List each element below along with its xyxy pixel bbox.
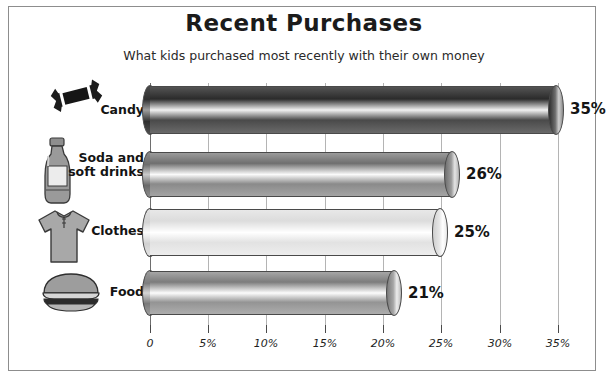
bar-body <box>150 152 452 197</box>
category-label-candy: Candy <box>48 103 144 117</box>
x-tick-25 <box>441 325 442 333</box>
x-tick-label: 5% <box>180 337 236 350</box>
bar-value-label: 25% <box>454 223 490 241</box>
x-tick-35 <box>558 325 559 333</box>
bar-cap-right <box>432 208 448 257</box>
chart-page: Recent Purchases What kids purchased mos… <box>0 0 608 381</box>
bar-cap-right <box>548 85 564 135</box>
x-tick-5 <box>208 325 209 333</box>
bar-clothes[interactable]: 25% <box>150 209 440 256</box>
x-tick-label: 0 <box>122 337 178 350</box>
bar-value-label: 35% <box>570 100 606 118</box>
category-label-line: Candy <box>100 102 144 117</box>
category-label-clothes: Clothes <box>48 224 144 238</box>
x-tick-label: 10% <box>238 337 294 350</box>
x-tick-30 <box>500 325 501 333</box>
x-tick-label: 30% <box>472 337 528 350</box>
category-label-line: Clothes <box>91 223 144 238</box>
bar-body <box>150 209 440 256</box>
bar-food[interactable]: 21% <box>150 271 394 315</box>
chart-title: Recent Purchases <box>0 10 608 36</box>
category-label-line: Soda and <box>40 151 144 165</box>
x-tick-label: 35% <box>530 337 586 350</box>
x-tick-15 <box>325 325 326 333</box>
category-label-line: soft drinks <box>40 165 144 179</box>
category-label-soda: Soda and soft drinks <box>40 151 144 179</box>
bar-body <box>150 271 394 315</box>
bar-value-label: 21% <box>408 284 444 302</box>
bar-cap-right <box>444 151 460 198</box>
x-tick-20 <box>383 325 384 333</box>
category-label-food: Food <box>48 285 144 299</box>
bar-value-label: 26% <box>466 165 502 183</box>
x-tick-label: 20% <box>355 337 411 350</box>
bar-soda[interactable]: 26% <box>150 152 452 197</box>
x-tick-label: 25% <box>413 337 469 350</box>
x-tick-10 <box>266 325 267 333</box>
category-label-line: Food <box>110 284 144 299</box>
bar-body <box>150 86 556 134</box>
x-tick-label: 15% <box>297 337 353 350</box>
bar-candy[interactable]: 35% <box>150 86 556 134</box>
plot-area: 0 5% 10% 15% 20% 25% 30% 35% 35% 26% 25% <box>150 83 558 325</box>
chart-subtitle: What kids purchased most recently with t… <box>0 48 608 63</box>
x-tick-0 <box>150 325 151 333</box>
bar-cap-right <box>386 270 402 316</box>
